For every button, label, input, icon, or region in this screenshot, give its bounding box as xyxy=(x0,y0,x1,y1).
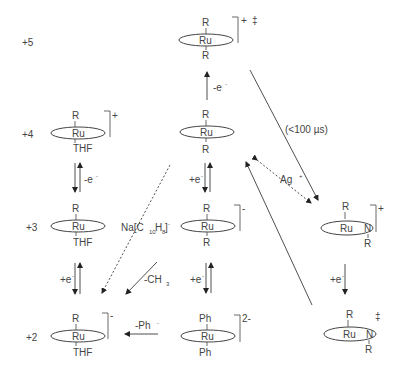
arrow-ru4-to-ru5: -e xyxy=(207,72,222,100)
arrow-ru3-right-to-ru2-right: +e xyxy=(330,264,345,294)
svg-text:-e: -e xyxy=(84,174,93,185)
complex-ru2-center: Ph Ru Ph 2- xyxy=(181,313,251,358)
svg-text:R: R xyxy=(72,110,79,121)
svg-text:(<100 µs): (<100 µs) xyxy=(285,124,328,135)
svg-text:-e: -e xyxy=(213,82,222,93)
svg-text:Ru: Ru xyxy=(343,329,356,340)
arrow-methyl-loss: -CH 3 xyxy=(126,262,170,294)
svg-text:2-: 2- xyxy=(242,313,251,324)
svg-text:3: 3 xyxy=(166,281,170,287)
oxidation-state-2: +2 xyxy=(26,332,38,343)
complex-ru4-left: R Ru THF + xyxy=(51,110,118,154)
svg-text:N: N xyxy=(364,223,371,234)
svg-text:Ru: Ru xyxy=(201,221,214,232)
svg-text:R: R xyxy=(72,313,79,324)
svg-text:R: R xyxy=(346,309,353,320)
svg-text:R: R xyxy=(202,17,209,28)
svg-text:R: R xyxy=(203,237,210,248)
arrow-ru4-ru3-left-equilibrium: -e xyxy=(75,163,93,192)
svg-text:R: R xyxy=(202,144,209,155)
svg-text:-: - xyxy=(225,81,227,87)
svg-text:-: - xyxy=(157,320,159,326)
arrow-ru3-ru2-left-equilibrium: +e xyxy=(60,263,80,294)
svg-text:R: R xyxy=(342,201,349,212)
svg-text:Ph: Ph xyxy=(199,347,211,358)
oxidation-state-4: +4 xyxy=(22,129,34,140)
svg-text:+: + xyxy=(112,110,118,121)
svg-text:R: R xyxy=(72,203,79,214)
svg-text:Ru: Ru xyxy=(201,331,214,342)
svg-text:R: R xyxy=(365,344,372,355)
reaction-scheme: +5 +4 +3 +2 R Ru R + ‡ R Ru THF + R Ru R… xyxy=(0,0,403,376)
complex-ru2-left: R Ru THF - xyxy=(51,310,113,358)
arrow-phenyl-loss: -Ph xyxy=(125,320,158,334)
arrow-ag-dashed: Ag + xyxy=(257,160,311,203)
svg-text:R: R xyxy=(202,109,209,120)
svg-text:+: + xyxy=(241,15,247,26)
svg-text:-: - xyxy=(110,310,113,321)
svg-text:-: - xyxy=(342,273,344,279)
complex-ru2-right: R Ru N R ‡ xyxy=(324,309,381,355)
arrow-ru3-ru2-center-equilibrium: +e xyxy=(190,263,211,293)
svg-text:THF: THF xyxy=(73,237,92,248)
arrow-ru2-right-to-ru4 xyxy=(246,162,312,305)
svg-text:+: + xyxy=(378,203,384,214)
svg-text:N: N xyxy=(366,329,373,340)
svg-text:+e: +e xyxy=(330,274,342,285)
svg-text:+e: +e xyxy=(60,274,72,285)
svg-text:-: - xyxy=(72,273,74,279)
complex-ru3-left: R Ru THF xyxy=(51,203,105,248)
oxidation-state-3: +3 xyxy=(26,222,38,233)
complex-ru3-center: R Ru R - xyxy=(181,203,245,248)
arrow-ru4-ru3-center-equilibrium: +e xyxy=(189,163,210,192)
svg-text:-CH: -CH xyxy=(144,274,162,285)
svg-text:-: - xyxy=(202,273,204,279)
svg-text:Ph: Ph xyxy=(199,313,211,324)
svg-text:+e: +e xyxy=(190,274,202,285)
svg-text:+e: +e xyxy=(189,174,201,185)
svg-text:R: R xyxy=(203,203,210,214)
svg-text:THF: THF xyxy=(73,347,92,358)
svg-text:‡: ‡ xyxy=(375,311,381,322)
svg-text:Ru: Ru xyxy=(72,128,85,139)
svg-text:Ru: Ru xyxy=(340,223,353,234)
svg-text:-Ph: -Ph xyxy=(135,320,151,331)
svg-text:Ru: Ru xyxy=(72,331,85,342)
svg-text:Na[C: Na[C xyxy=(121,222,144,233)
svg-text:-: - xyxy=(168,221,170,227)
svg-text:Ru: Ru xyxy=(72,221,85,232)
complex-ru5-center: R Ru R + ‡ xyxy=(179,15,258,61)
svg-text:R: R xyxy=(364,238,371,249)
svg-text:R: R xyxy=(202,50,209,61)
svg-text:+: + xyxy=(299,173,303,179)
svg-text:Ag: Ag xyxy=(280,174,292,185)
complex-ru4-center: R Ru R xyxy=(180,109,234,155)
complex-ru3-right: R Ru N R + xyxy=(321,201,384,249)
svg-text:Ru: Ru xyxy=(200,127,213,138)
svg-text:-: - xyxy=(96,173,98,179)
oxidation-state-5: +5 xyxy=(22,37,34,48)
svg-text:-: - xyxy=(242,203,245,214)
svg-text:THF: THF xyxy=(73,143,92,154)
svg-text:‡: ‡ xyxy=(252,15,258,26)
svg-text:-: - xyxy=(201,173,203,179)
svg-text:Ru: Ru xyxy=(199,35,212,46)
